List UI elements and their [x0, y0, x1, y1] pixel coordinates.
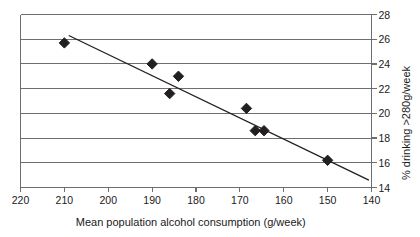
data-points-group — [59, 38, 333, 166]
data-point-marker — [173, 71, 183, 81]
x-tick-label: 190 — [143, 194, 161, 206]
y-tick-label: 22 — [379, 83, 391, 95]
axis-frame-group — [21, 15, 372, 188]
x-tick-label: 210 — [56, 194, 74, 206]
data-point-marker — [259, 125, 269, 135]
x-tick-label: 220 — [12, 194, 30, 206]
x-tick-label: 150 — [319, 194, 337, 206]
x-tick-label: 160 — [275, 194, 293, 206]
data-point-marker — [241, 103, 251, 113]
x-tick-label: 170 — [231, 194, 249, 206]
data-point-marker — [147, 59, 157, 69]
gridlines-group — [21, 39, 372, 163]
y-axis-title: % drinking >280g/week — [400, 65, 412, 179]
x-axis-title: Mean population alcohol consumption (g/w… — [0, 216, 382, 228]
y-tick-marks-group — [372, 15, 377, 188]
y-tick-label: 26 — [379, 33, 391, 45]
x-tick-label: 140 — [363, 194, 381, 206]
y-tick-label: 18 — [379, 132, 391, 144]
x-tick-label: 180 — [187, 194, 205, 206]
data-point-marker — [164, 88, 174, 98]
scatter-chart: 220210200190180170160150140 141618202224… — [0, 0, 420, 237]
y-tick-label: 28 — [379, 9, 391, 21]
y-tick-label: 16 — [379, 157, 391, 169]
data-point-marker — [322, 155, 332, 165]
y-tick-label: 24 — [379, 58, 391, 70]
x-tick-label: 200 — [99, 194, 117, 206]
y-tick-label: 20 — [379, 107, 391, 119]
y-tick-label: 14 — [379, 182, 391, 194]
